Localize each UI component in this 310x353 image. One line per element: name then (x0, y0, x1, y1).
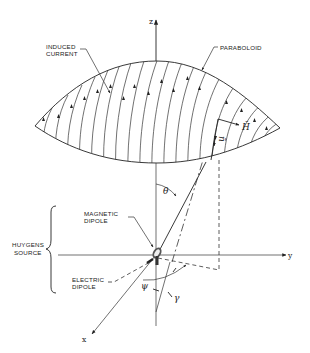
z-axis-label: z (149, 17, 153, 26)
y-axis-label: y (287, 251, 293, 260)
electric-dipole-arrow (147, 259, 153, 263)
huygens-source-brace (46, 206, 56, 293)
electric-dipole-label-1: ELECTRIC (72, 276, 105, 283)
paraboloid-surface (35, 58, 280, 172)
current-direction-arrows (42, 76, 268, 140)
induced-current-label-2: CURRENT (46, 50, 78, 57)
huygens-source-label-2: SOURCE (14, 249, 42, 256)
electric-dipole-icon (156, 256, 159, 265)
electric-dipole-label-2: DIPOLE (72, 283, 96, 290)
projection-line (172, 160, 203, 262)
magnetic-dipole-label-2: DIPOLE (84, 217, 108, 224)
x-axis-label: x (82, 335, 87, 344)
gamma-label: γ (174, 293, 180, 303)
ray-to-surface (157, 162, 206, 255)
theta-label: θ (163, 186, 169, 196)
paraboloid-leader (202, 47, 218, 70)
induced-current-label-1: INDUCED (46, 43, 76, 50)
magnetic-dipole-label-1: MAGNETIC (84, 210, 119, 217)
psi-arc (143, 265, 186, 280)
normal-vector-label: n̄ (217, 136, 227, 142)
gamma-tick-right (168, 292, 172, 297)
azimuth-dashed-line (158, 258, 219, 270)
h-vector-arrow (218, 119, 239, 125)
electric-dipole-leader (108, 262, 150, 282)
huygens-source-label-1: HUYGENS (12, 241, 44, 248)
h-vector-label: H̄ (241, 121, 250, 132)
gamma-marker (173, 268, 176, 272)
magnetic-dipole-leader (128, 217, 153, 247)
paraboloid-label: PARABOLOID (220, 44, 262, 51)
diagram-canvas: z (0, 0, 310, 353)
huygens-dipoles (147, 246, 163, 265)
psi-label: ψ (141, 281, 149, 291)
gamma-line (156, 262, 170, 312)
diagram-svg: z (0, 0, 310, 353)
induced-current-lines (43, 58, 280, 172)
